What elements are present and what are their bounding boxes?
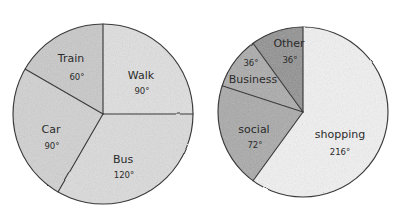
slice-value-other: 36° xyxy=(282,55,297,65)
pie-charts-canvas: Walk90°Bus120°Car90°Train60° shopping216… xyxy=(0,0,408,222)
slice-value-bus: 120° xyxy=(114,170,134,180)
slice-label-train: Train xyxy=(57,52,84,65)
slice-value-shopping: 216° xyxy=(330,147,350,157)
slice-value-car: 90° xyxy=(44,141,59,151)
slice-label-bus: Bus xyxy=(113,153,134,166)
slice-label-walk: Walk xyxy=(128,69,155,82)
internet-use-pie-chart: shopping216°social72°Business36°Other36° xyxy=(218,27,388,197)
slice-label-business: Business xyxy=(229,73,278,86)
slice-label-shopping: shopping xyxy=(315,128,365,141)
slice-label-car: Car xyxy=(42,123,61,136)
slice-value-social: 72° xyxy=(247,140,262,150)
slice-value-walk: 90° xyxy=(134,86,149,96)
slice-value-business: 36° xyxy=(243,58,258,68)
slice-value-train: 60° xyxy=(69,72,84,82)
charts-svg: Walk90°Bus120°Car90°Train60° shopping216… xyxy=(0,0,408,222)
slice-label-social: social xyxy=(238,123,269,136)
slice-label-other: Other xyxy=(273,37,305,50)
transport-pie-chart: Walk90°Bus120°Car90°Train60° xyxy=(13,24,193,204)
